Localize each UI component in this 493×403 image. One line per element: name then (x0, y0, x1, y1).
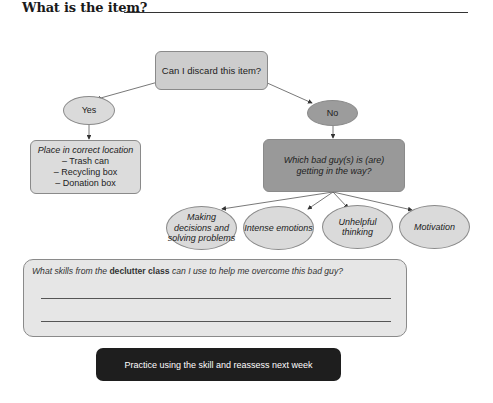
bad-guy-question-text: Which bad guy(s) is (are) getting in the… (272, 155, 396, 177)
no-ellipse: No (307, 100, 358, 126)
location-item: – Trash can (62, 156, 109, 167)
skills-answer-line-2[interactable] (41, 321, 391, 322)
bad-guy-label: Making decisions and solving problems (167, 212, 236, 244)
place-location-box: Place in correct location – Trash can – … (30, 140, 141, 194)
practice-box: Practice using the skill and reassess ne… (96, 348, 341, 381)
bad-guy-decisions: Making decisions and solving problems (166, 206, 237, 250)
discard-question-box: Can I discard this item? (155, 51, 268, 90)
bad-guy-question-box: Which bad guy(s) is (are) getting in the… (263, 139, 405, 192)
bad-guy-label: Motivation (414, 222, 455, 233)
discard-question-text: Can I discard this item? (162, 65, 261, 76)
no-label: No (327, 108, 339, 119)
skills-answer-line-1[interactable] (41, 298, 391, 299)
skills-box: What skills from the declutter class can… (23, 259, 407, 337)
skills-prompt-post: can I use to help me overcome this bad g… (170, 266, 343, 276)
skills-prompt: What skills from the declutter class can… (32, 266, 343, 276)
bad-guy-label: Unhelpful thinking (323, 217, 392, 238)
skills-prompt-bold: declutter class (109, 266, 169, 276)
bad-guy-motivation: Motivation (399, 205, 470, 249)
yes-label: Yes (82, 105, 97, 116)
bad-guy-emotions: Intense emotions (243, 206, 314, 250)
place-location-heading: Place in correct location (38, 145, 134, 156)
location-item: – Donation box (55, 178, 116, 189)
bad-guy-thinking: Unhelpful thinking (322, 205, 393, 249)
bad-guy-label: Intense emotions (244, 223, 313, 234)
skills-prompt-pre: What skills from the (32, 266, 109, 276)
practice-label: Practice using the skill and reassess ne… (124, 360, 312, 370)
yes-ellipse: Yes (63, 96, 115, 125)
location-item: – Recycling box (54, 167, 118, 178)
